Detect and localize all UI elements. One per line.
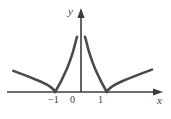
plot-canvas — [0, 0, 171, 119]
y-axis-label: y — [68, 6, 73, 17]
curve-left-asymptote-branch — [55, 37, 77, 92]
curve-right-branch — [107, 70, 152, 92]
x-axis-label: x — [157, 95, 162, 106]
tick-label-negative-one: −1 — [48, 95, 59, 105]
tick-label-one: 1 — [98, 95, 103, 105]
curve-right-asymptote-branch — [85, 37, 107, 92]
function-graph-figure: y x −1 0 1 — [0, 0, 171, 119]
tick-label-zero: 0 — [70, 95, 75, 105]
y-axis-arrowhead — [77, 8, 84, 18]
curve-group — [13, 37, 152, 92]
curve-left-branch — [13, 71, 55, 92]
